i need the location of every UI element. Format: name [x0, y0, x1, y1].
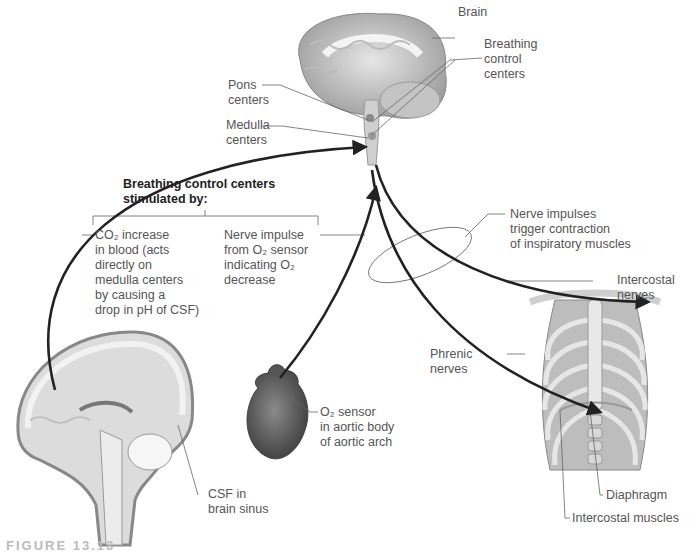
label-line: brain sinus [208, 502, 268, 517]
label-nerve-impulses-trigger: Nerve impulses trigger contraction of in… [510, 207, 631, 252]
label-intercostal-nerves: Intercostal nerves [617, 273, 675, 303]
label-line: control [484, 52, 538, 67]
label-line: directly on [95, 258, 199, 273]
heading-line: stimulated by: [123, 192, 275, 207]
label-csf: CSF in brain sinus [208, 487, 268, 517]
brain-illustration [299, 13, 447, 165]
label-co2-stimulus: CO₂ increase in blood (acts directly on … [95, 228, 199, 318]
label-line: Nerve impulse [224, 228, 308, 243]
heart-illustration [247, 365, 308, 459]
label-line: of inspiratory muscles [510, 237, 631, 252]
label-line: Intercostal [617, 273, 675, 288]
label-line: centers [484, 67, 538, 82]
heading-line: Breathing control centers [123, 177, 275, 192]
label-line: medulla centers [95, 273, 199, 288]
label-line: trigger contraction [510, 222, 631, 237]
label-line: Breathing [484, 37, 538, 52]
nerve-highlight-oval [362, 216, 479, 294]
label-breathing-control-centers: Breathing control centers [484, 37, 538, 82]
label-line: Pons [228, 78, 269, 93]
label-phrenic-nerves: Phrenic nerves [430, 347, 472, 377]
label-pons-centers: Pons centers [228, 78, 269, 108]
rib-cage-illustration [530, 293, 660, 470]
label-diaphragm: Diaphragm [606, 488, 667, 503]
label-line: centers [228, 93, 269, 108]
label-line: centers [226, 133, 270, 148]
label-line: in blood (acts [95, 243, 199, 258]
label-line: drop in pH of CSF) [95, 303, 199, 318]
label-brain: Brain [458, 5, 487, 20]
label-o2-sensor: O₂ sensor in aortic body of aortic arch [320, 405, 394, 450]
brain-csf-illustration [18, 332, 193, 545]
label-line: nerves [430, 362, 472, 377]
figure-caption: FIGURE 13.13 [6, 538, 115, 552]
label-line: Nerve impulses [510, 207, 631, 222]
label-line: indicating O₂ [224, 258, 308, 273]
label-line: CO₂ increase [95, 228, 199, 243]
label-medulla-centers: Medulla centers [226, 118, 270, 148]
label-line: O₂ sensor [320, 405, 394, 420]
label-nerve-impulse-stimulus: Nerve impulse from O₂ sensor indicating … [224, 228, 308, 288]
label-line: nerves [617, 288, 675, 303]
label-line: CSF in [208, 487, 268, 502]
label-intercostal-muscles: Intercostal muscles [572, 511, 679, 526]
label-line: Medulla [226, 118, 270, 133]
label-line: in aortic body [320, 420, 394, 435]
label-line: decrease [224, 273, 308, 288]
heading-stimuli: Breathing control centers stimulated by: [123, 177, 275, 207]
label-line: by causing a [95, 288, 199, 303]
label-line: of aortic arch [320, 435, 394, 450]
label-line: from O₂ sensor [224, 243, 308, 258]
label-line: Phrenic [430, 347, 472, 362]
